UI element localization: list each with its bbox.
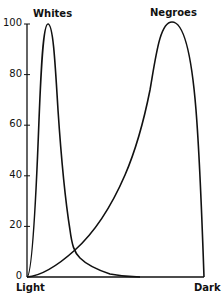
whites-label: Whites: [33, 8, 72, 19]
negroes-label: Negroes: [150, 7, 197, 18]
y-tick-80: 80: [0, 68, 22, 79]
y-tick-60: 60: [0, 118, 22, 129]
y-tick-20: 20: [0, 219, 22, 230]
distribution-chart: Whites Negroes 100 80 60 40 20 0 Light D…: [0, 0, 222, 300]
x-label-light: Light: [16, 282, 45, 293]
y-tick-0: 0: [0, 270, 22, 281]
chart-plot-area: [0, 0, 222, 300]
y-tick-40: 40: [0, 169, 22, 180]
y-tick-100: 100: [0, 17, 22, 28]
negroes-curve: [27, 22, 204, 277]
x-label-dark: Dark: [194, 282, 221, 293]
whites-curve: [27, 24, 140, 277]
